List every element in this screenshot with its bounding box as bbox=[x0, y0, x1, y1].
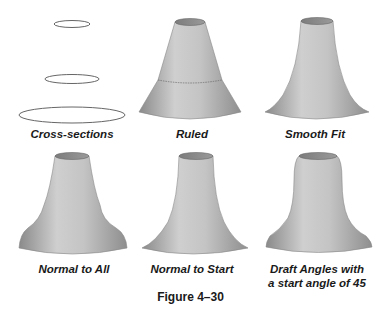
panel-normal-to-all: Normal to All bbox=[0, 150, 135, 260]
top-face bbox=[301, 18, 333, 25]
panel-label: Smooth Fit bbox=[250, 128, 380, 141]
ruled-loft-solid bbox=[127, 0, 257, 130]
panel-label: Normal to All bbox=[9, 263, 139, 276]
normal-to-start-loft-solid bbox=[130, 150, 255, 260]
top-face bbox=[179, 153, 213, 160]
top-face bbox=[175, 19, 205, 26]
panel-cross-sections: Cross-sections bbox=[0, 0, 130, 150]
panel-ruled: Ruled bbox=[127, 0, 257, 150]
draft-angles-loft-solid bbox=[250, 150, 381, 260]
smooth-fit-loft-solid bbox=[250, 0, 381, 130]
panel-draft-angles: Draft Angles with a start angle of 45 bbox=[250, 150, 381, 290]
bottom-section-ellipse bbox=[19, 107, 125, 123]
panel-normal-to-start: Normal to Start bbox=[130, 150, 255, 260]
panel-label: Ruled bbox=[127, 128, 257, 141]
panel-smooth-fit: Smooth Fit bbox=[250, 0, 381, 150]
panel-label: Cross-sections bbox=[7, 128, 137, 141]
top-section-ellipse bbox=[54, 21, 90, 28]
normal-to-all-loft-solid bbox=[0, 150, 135, 260]
top-face bbox=[299, 153, 337, 160]
middle-section-ellipse bbox=[45, 75, 99, 84]
panel-label: Normal to Start bbox=[127, 263, 257, 276]
panel-label-line2: a start angle of 45 bbox=[252, 277, 381, 290]
figure-caption: Figure 4–30 bbox=[0, 290, 381, 304]
top-face bbox=[55, 153, 89, 160]
cross-section-ellipses bbox=[0, 0, 130, 130]
panel-label-line1: Draft Angles with bbox=[252, 263, 381, 276]
